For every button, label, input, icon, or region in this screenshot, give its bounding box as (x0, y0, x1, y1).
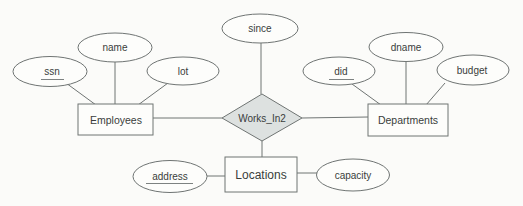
attribute-label-since: since (248, 23, 272, 34)
attribute-label-dname: dname (391, 42, 422, 53)
attribute-label-lot: lot (178, 66, 189, 77)
attribute-label-capacity: capacity (335, 170, 372, 181)
attribute-label-budget: budget (457, 65, 488, 76)
er-diagram: ssn name lot since did dname budget addr… (0, 0, 523, 206)
entity-label-employees: Employees (90, 114, 142, 126)
entity-label-departments: Departments (378, 114, 438, 126)
edge-budget-departments (426, 83, 445, 105)
attribute-label-did: did (334, 66, 347, 77)
attribute-label-ssn: ssn (44, 66, 60, 77)
attribute-label-address: address (152, 171, 188, 182)
edge-worksin2-departments (302, 117, 368, 118)
relationship-label-works-in2: Works_In2 (238, 113, 286, 124)
edge-did-departments (352, 84, 381, 105)
edge-lot-employees (138, 83, 168, 105)
entity-label-locations: Locations (235, 168, 286, 182)
attribute-label-name: name (102, 42, 127, 53)
er-diagram-canvas: ssn name lot since did dname budget addr… (0, 0, 523, 206)
edge-ssn-employees (66, 83, 96, 105)
